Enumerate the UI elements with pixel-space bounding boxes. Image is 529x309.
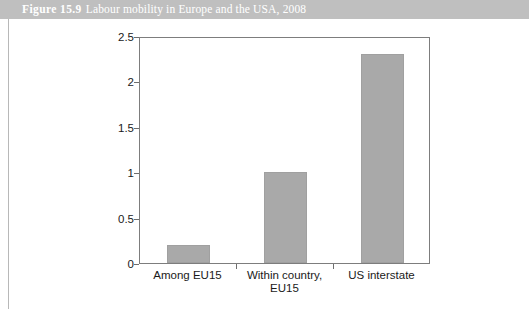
y-axis-tick-mark (134, 128, 139, 129)
y-axis-tick-label: 0 (94, 258, 134, 270)
x-axis-category-label-line: US interstate (325, 269, 438, 282)
y-axis-tick-label: 2 (94, 76, 134, 88)
bars-container (140, 38, 429, 263)
y-axis-tick-label: 1 (94, 167, 134, 179)
bar (264, 172, 307, 263)
figure-caption: Labour mobility in Europe and the USA, 2… (86, 3, 306, 15)
y-axis-tick-mark (134, 37, 139, 38)
figure-header-text: Figure 15.9Labour mobility in Europe and… (22, 3, 306, 15)
figure-page: Figure 15.9Labour mobility in Europe and… (0, 0, 529, 309)
figure-header-band: Figure 15.9Labour mobility in Europe and… (0, 0, 529, 19)
x-axis-category-label-line: EU15 (228, 282, 341, 295)
bar (361, 54, 404, 263)
y-axis-tick-mark (134, 82, 139, 83)
y-axis-tick-label: 1.5 (94, 122, 134, 134)
figure-number: Figure 15.9 (22, 3, 82, 15)
y-axis: 00.511.522.5 (90, 37, 134, 264)
bar-chart: 00.511.522.5 Among EU15Within country,EU… (0, 19, 529, 309)
plot-area (139, 37, 430, 264)
y-axis-tick-mark (134, 173, 139, 174)
y-axis-tick-label: 2.5 (94, 31, 134, 43)
y-axis-tick-mark (134, 219, 139, 220)
y-axis-tick-mark (134, 264, 139, 265)
y-axis-tick-label: 0.5 (94, 213, 134, 225)
bar (167, 245, 210, 263)
x-axis-category-label: US interstate (325, 269, 438, 282)
